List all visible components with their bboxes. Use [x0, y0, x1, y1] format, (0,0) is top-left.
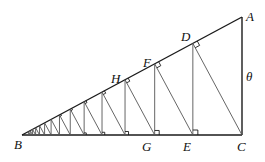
label-C: C — [237, 140, 246, 153]
perpendicular-to-ab — [40, 126, 45, 135]
perpendicular-to-ab — [155, 64, 193, 135]
perpendicular-to-ab — [70, 109, 84, 135]
side-ba — [22, 17, 242, 135]
right-angle-mark — [193, 130, 198, 135]
perpendicular-to-ab — [193, 43, 242, 135]
perpendicular-to-ab — [125, 80, 155, 135]
label-theta: θ — [246, 70, 252, 83]
perpendicular-to-ab — [45, 123, 52, 135]
label-D: D — [181, 30, 190, 43]
perpendicular-to-ab — [102, 92, 125, 135]
label-B: B — [14, 138, 22, 151]
diagram: ABCDEFGHθ — [0, 0, 265, 162]
label-G: G — [142, 140, 151, 153]
perpendicular-to-ab — [51, 119, 59, 135]
label-H: H — [111, 72, 120, 85]
label-F: F — [143, 56, 151, 69]
label-E: E — [183, 140, 191, 153]
perpendicular-to-ab — [59, 115, 70, 135]
perpendicular-to-ab — [33, 129, 36, 135]
triangle-figure — [0, 0, 265, 162]
perpendicular-to-ab — [36, 128, 40, 135]
perpendicular-to-ab — [84, 102, 102, 135]
label-A: A — [246, 10, 254, 23]
